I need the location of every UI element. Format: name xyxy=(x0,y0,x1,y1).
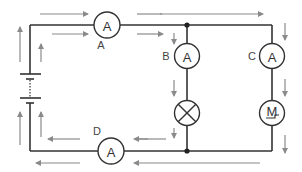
battery xyxy=(20,74,41,103)
ammeter-b-label: B xyxy=(162,50,169,62)
ammeter-b-symbol: A xyxy=(183,50,192,65)
ammeter-a-symbol: A xyxy=(103,19,112,34)
wires xyxy=(30,25,272,151)
ammeter-d: A D xyxy=(93,125,124,164)
ammeter-a-label: A xyxy=(97,39,105,51)
ammeter-a: A A xyxy=(94,12,120,51)
ammeter-b: A B xyxy=(162,44,199,69)
current-arrows xyxy=(20,14,285,163)
circuit-diagram: A A A B A C M A D xyxy=(0,0,302,172)
ammeter-d-label: D xyxy=(93,125,101,137)
ammeter-c-symbol: A xyxy=(268,50,277,65)
lamp-icon xyxy=(175,101,200,126)
junction-bottom xyxy=(184,148,189,153)
ammeter-c: A C xyxy=(248,44,284,69)
motor: M xyxy=(260,101,285,126)
ammeter-d-symbol: A xyxy=(107,145,116,160)
motor-symbol: M xyxy=(267,104,278,119)
ammeter-c-label: C xyxy=(248,50,256,62)
junction-top xyxy=(184,22,189,27)
